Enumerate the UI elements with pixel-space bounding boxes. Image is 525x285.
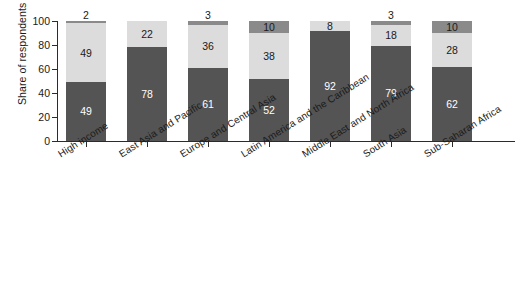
bar-segment-value: 38 — [263, 51, 275, 62]
bar-segment-value: 36 — [202, 41, 214, 52]
y-tick-mark — [52, 117, 58, 118]
bar-segment-value: 3 — [371, 10, 411, 21]
y-tick-label: 100 — [24, 16, 50, 27]
bar-segment-value: 2 — [66, 10, 106, 21]
y-tick-label: 80 — [24, 40, 50, 51]
bar-segment-middle[interactable]: 8 — [310, 21, 350, 31]
bar-segment-middle[interactable]: 22 — [127, 21, 167, 47]
y-tick-mark — [52, 141, 58, 142]
y-tick-mark — [52, 45, 58, 46]
bar-segment-value: 10 — [446, 22, 458, 33]
y-tick-mark — [52, 93, 58, 94]
y-tick-mark — [52, 21, 58, 22]
bar-segment-value: 62 — [446, 99, 458, 110]
bar-segment-middle[interactable]: 38 — [249, 33, 289, 79]
bar-segment-value: 78 — [141, 89, 153, 100]
bar-segment-top[interactable]: 10 — [432, 21, 472, 33]
y-axis-line — [57, 21, 58, 142]
bar-segment-value: 49 — [80, 48, 92, 59]
bar-segment-value: 8 — [327, 21, 333, 32]
bar-segment-value: 3 — [188, 10, 228, 21]
bar-segment-middle[interactable]: 18 — [371, 25, 411, 47]
bar-segment-value: 22 — [141, 29, 153, 40]
bar-segment-value: 28 — [446, 45, 458, 56]
bar-segment-middle[interactable]: 36 — [188, 25, 228, 68]
bar-segment-middle[interactable]: 28 — [432, 33, 472, 67]
y-tick-mark — [52, 69, 58, 70]
y-tick-label: 60 — [24, 64, 50, 75]
bar-segment-value: 10 — [263, 22, 275, 33]
bar-segment-top[interactable]: 10 — [249, 21, 289, 33]
bar-segment-value: 18 — [385, 30, 397, 41]
bar-segment-middle[interactable]: 49 — [66, 23, 106, 82]
y-tick-label: 0 — [24, 136, 50, 147]
bar-segment-value: 49 — [80, 106, 92, 117]
bar-group[interactable]: 31879 — [371, 21, 411, 141]
stacked-bar-chart: Share of respondents (%) 100806040200 24… — [0, 0, 525, 285]
y-tick-label: 40 — [24, 88, 50, 99]
y-tick-label: 20 — [24, 112, 50, 123]
